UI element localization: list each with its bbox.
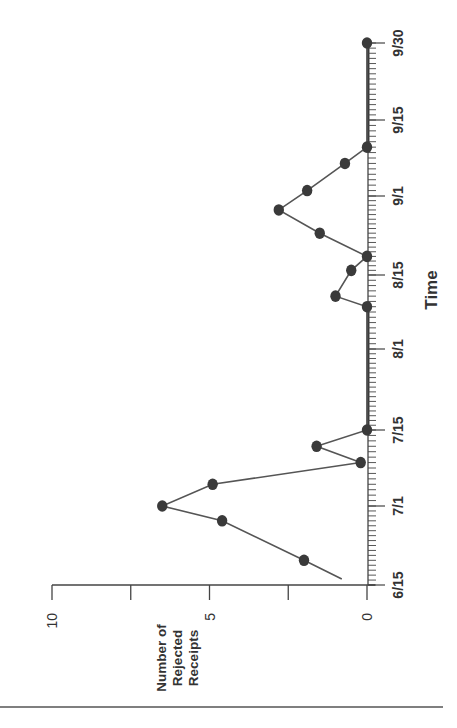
data-point	[217, 515, 227, 527]
data-point	[315, 227, 325, 239]
data-point	[356, 457, 366, 469]
time-tick-label: 7/1	[390, 496, 406, 516]
data-point	[311, 440, 321, 452]
time-tick-label: 9/15	[390, 106, 406, 133]
data-point	[362, 301, 372, 313]
time-tick-label: 9/1	[390, 186, 406, 206]
time-tick-label: 8/1	[390, 339, 406, 359]
value-tick-label: 5	[202, 613, 218, 621]
value-tick-label: 0	[359, 613, 375, 621]
data-point	[207, 478, 217, 490]
value-axis-title-line: Receipts	[186, 630, 201, 686]
value-tick-label: 10	[44, 613, 60, 629]
data-point	[330, 290, 340, 302]
time-tick-label: 7/15	[390, 416, 406, 443]
data-point	[157, 500, 167, 512]
time-tick-label: 9/30	[390, 29, 406, 56]
time-tick-label: 8/15	[390, 261, 406, 288]
time-axis-title: Time	[422, 270, 441, 309]
value-axis-title: Number ofRejectedReceipts	[154, 624, 201, 692]
value-axis: 0510	[44, 585, 375, 629]
time-tick-label: 6/15	[390, 571, 406, 598]
data-point	[362, 141, 372, 153]
rejected-receipts-chart: 0510 6/157/17/158/18/159/19/159/30 Time …	[0, 0, 457, 728]
data-series	[157, 37, 372, 579]
value-axis-title-line: Rejected	[170, 630, 185, 686]
data-point	[299, 555, 309, 567]
data-point	[362, 251, 372, 263]
data-point	[340, 158, 350, 170]
data-point	[362, 424, 372, 436]
time-axis: 6/157/17/158/18/159/19/159/30	[368, 29, 406, 598]
data-point	[302, 185, 312, 197]
value-axis-title-line: Number of	[154, 624, 169, 692]
data-point	[274, 204, 284, 216]
data-point	[346, 265, 356, 277]
data-point	[362, 37, 372, 49]
